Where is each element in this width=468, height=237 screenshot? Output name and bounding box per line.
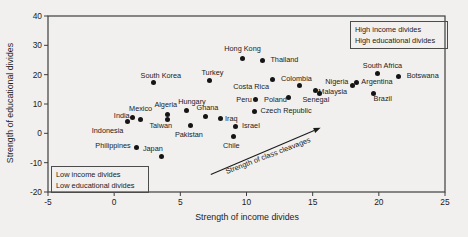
- svg-text:25: 25: [440, 197, 450, 207]
- point-label-nigeria: Nigeria: [325, 78, 348, 86]
- svg-text:0: 0: [37, 128, 42, 138]
- point-label-hong-kong: Hong Kong: [224, 45, 261, 53]
- point-label-pakistan: Pakistan: [175, 131, 203, 139]
- point-label-turkey: Turkey: [201, 69, 223, 77]
- data-point-chile: [231, 134, 236, 139]
- svg-text:-20: -20: [30, 187, 42, 197]
- svg-text:-5: -5: [44, 197, 52, 207]
- point-label-hungary: Hungary: [178, 98, 206, 106]
- point-label-philippines: Philippines: [95, 142, 130, 150]
- data-point-south-korea: [151, 80, 156, 85]
- point-label-algeria: Algeria: [154, 101, 177, 109]
- y-axis-title: Strength of educational divides: [5, 43, 15, 163]
- data-point-indonesia: [125, 119, 130, 124]
- svg-text:5: 5: [178, 197, 183, 207]
- point-label-brazil: Brazil: [374, 95, 392, 103]
- svg-text:30: 30: [33, 40, 43, 50]
- point-label-costa-rica: Costa Rica: [233, 83, 269, 91]
- point-label-indonesia: Indonesia: [92, 127, 124, 135]
- low-box-line2: Low educational divides: [56, 180, 144, 191]
- point-label-israel: Israel: [242, 122, 260, 130]
- svg-text:10: 10: [33, 99, 43, 109]
- point-label-senegal: Senegal: [303, 96, 330, 104]
- point-label-iraq: Iraq: [225, 115, 238, 123]
- point-label-chile: Chile: [223, 142, 240, 150]
- point-label-thailand: Thailand: [270, 56, 298, 64]
- point-label-south-korea: South Korea: [141, 72, 182, 80]
- point-label-peru: Peru: [236, 96, 251, 104]
- scatter-figure: -50510152025403020100-10-20 Strength of …: [0, 0, 468, 237]
- svg-text:20: 20: [33, 70, 43, 80]
- data-point-south-africa: [375, 71, 380, 76]
- data-point-thailand: [260, 58, 265, 63]
- svg-text:0: 0: [112, 197, 117, 207]
- point-label-mexico: Mexico: [129, 105, 152, 113]
- point-label-poland: Poland: [264, 96, 287, 104]
- high-box-line2: High educational divides: [355, 35, 443, 46]
- svg-text:15: 15: [308, 197, 318, 207]
- point-label-botswana: Botswana: [407, 72, 439, 80]
- svg-text:-10: -10: [30, 158, 42, 168]
- high-box-line1: High income divides: [355, 24, 443, 35]
- low-divides-annotation-box: Low income divides Low educational divid…: [51, 166, 149, 193]
- point-label-argentina: Argentina: [361, 78, 392, 86]
- data-point-turkey: [207, 78, 212, 83]
- data-point-argentina: [354, 80, 359, 85]
- data-point-ghana: [203, 114, 208, 119]
- x-axis-title: Strength of income divides: [195, 212, 299, 222]
- point-label-taiwan: Taiwan: [149, 122, 172, 130]
- data-point-israel: [233, 124, 238, 129]
- point-label-czech-republic: Czech Republic: [260, 107, 311, 115]
- point-label-south-africa: South Africa: [363, 62, 402, 70]
- low-box-line1: Low income divides: [56, 169, 144, 180]
- svg-text:20: 20: [374, 197, 384, 207]
- point-label-japan: Japan: [143, 145, 163, 153]
- svg-text:40: 40: [33, 11, 43, 21]
- high-divides-annotation-box: High income divides High educational div…: [350, 21, 448, 49]
- svg-text:10: 10: [242, 197, 252, 207]
- point-label-colombia: Colombia: [281, 75, 312, 83]
